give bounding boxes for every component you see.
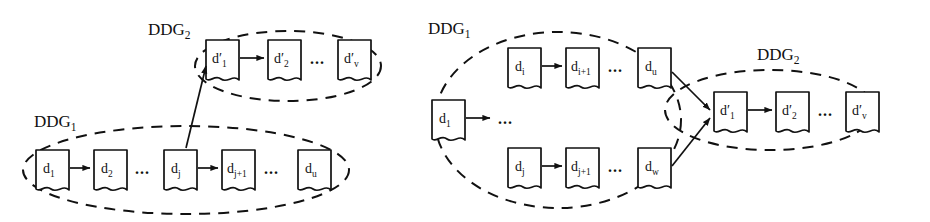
edge-right-cross-du-dp1	[672, 72, 710, 110]
node-left-du: du	[298, 150, 331, 190]
diagram-panel-left: DDG2 DDG1 d′1 d′2 ...	[0, 0, 420, 222]
node-right-di1: di+1	[566, 48, 599, 88]
figure-root: DDG2 DDG1 d′1 d′2 ...	[0, 0, 930, 222]
node-left-dj: dj	[164, 150, 197, 190]
group-label-right-ddg2: DDG2	[757, 45, 800, 66]
edge-left-cross-dj-dp1	[186, 66, 206, 148]
node-right-di: di	[508, 48, 541, 88]
node-left-dp1: d′1	[206, 40, 239, 80]
node-right-d1: d1	[432, 100, 465, 140]
node-right-dp2: d′2	[776, 92, 809, 132]
node-left-d1: d1	[36, 150, 69, 190]
ellipsis-right-top-branch: ...	[608, 58, 623, 75]
group-label-left-ddg2: DDG2	[148, 20, 191, 41]
diagram-panel-right: DDG1 DDG2 d1 ... di	[420, 0, 930, 222]
node-right-dw: dw	[638, 148, 671, 188]
node-right-dp1: d′1	[714, 92, 747, 132]
node-left-d2: d2	[94, 150, 127, 190]
node-right-dj: dj	[508, 148, 541, 188]
node-right-du: du	[638, 48, 671, 88]
group-label-right-ddg1: DDG1	[428, 19, 471, 40]
node-left-dj1: dj+1	[222, 150, 255, 190]
group-label-left-ddg1: DDG1	[34, 112, 77, 133]
ellipsis-right-d1-branch: ...	[498, 110, 513, 127]
ellipsis-left-ddg2: ...	[310, 50, 325, 67]
node-right-dj1: dj+1	[566, 148, 599, 188]
node-left-dp2: d′2	[268, 40, 301, 80]
node-right-dpv: d′v	[846, 92, 879, 132]
node-left-dpv: d′v	[338, 40, 371, 80]
ellipsis-left-ddg1-second: ...	[264, 160, 279, 177]
ellipsis-right-ddg2: ...	[818, 102, 833, 119]
ellipsis-right-bottom-branch: ...	[608, 158, 623, 175]
ellipsis-left-ddg1-first: ...	[135, 160, 150, 177]
